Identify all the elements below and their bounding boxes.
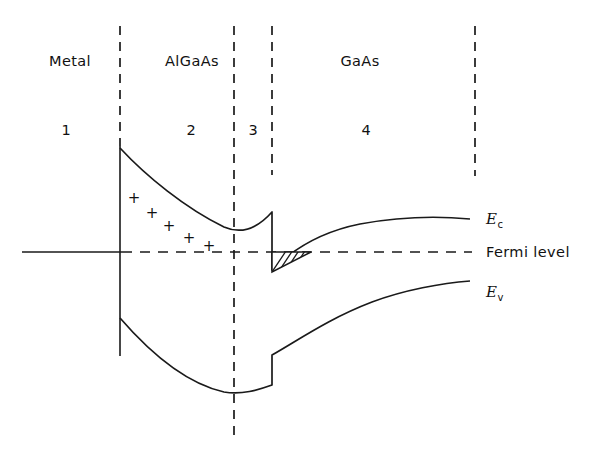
region-name-labels: Metal AlGaAs GaAs — [49, 53, 380, 69]
plus-sign-icon-5: + — [203, 237, 216, 255]
region-number-1: 1 — [61, 122, 70, 138]
valence-band-label: Ev — [485, 283, 503, 303]
two-dimensional-electron-gas-hatched-region — [268, 245, 320, 290]
plus-sign-icon-4: + — [183, 229, 196, 247]
band-diagram-figure: Metal AlGaAs GaAs 1 2 3 4 + + + + + Ec E… — [0, 0, 591, 463]
region-number-4: 4 — [361, 122, 370, 138]
region-number-labels: 1 2 3 4 — [61, 122, 370, 138]
band-edge-labels: Ec Ev Fermi level — [485, 210, 570, 303]
region-number-3: 3 — [248, 122, 257, 138]
region-label-algaas: AlGaAs — [165, 53, 219, 69]
band-diagram-svg: Metal AlGaAs GaAs 1 2 3 4 + + + + + Ec E… — [0, 0, 591, 463]
conduction-band-label: Ec — [485, 210, 503, 230]
plus-sign-icon-2: + — [146, 204, 159, 222]
plus-sign-icon-1: + — [128, 189, 141, 207]
region-number-2: 2 — [186, 122, 195, 138]
positive-charge-markers: + + + + + — [128, 189, 216, 255]
valence-band-curve — [120, 281, 470, 393]
plus-sign-icon-3: + — [163, 217, 176, 235]
region-label-metal: Metal — [49, 53, 91, 69]
ec-subscript: c — [497, 219, 503, 230]
fermi-level-label: Fermi level — [486, 244, 570, 260]
ec-symbol: E — [485, 210, 497, 228]
ev-subscript: v — [497, 292, 503, 303]
region-label-gaas: GaAs — [340, 53, 379, 69]
ev-symbol: E — [485, 283, 497, 301]
